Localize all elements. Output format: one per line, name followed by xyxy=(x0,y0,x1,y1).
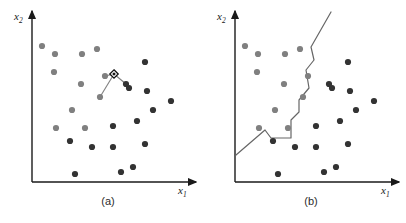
data-point-class-a xyxy=(94,46,100,52)
data-point-class-b xyxy=(123,81,129,87)
data-points-group xyxy=(242,43,377,177)
y-axis-label: x2 xyxy=(13,10,23,25)
data-point-class-a xyxy=(305,73,311,79)
data-point-class-b xyxy=(144,88,150,94)
data-point-class-b xyxy=(110,123,116,129)
data-point-class-a xyxy=(53,125,59,131)
data-point-class-a xyxy=(78,81,84,87)
data-point-class-b xyxy=(371,98,377,104)
x-axis-label: x1 xyxy=(380,184,390,199)
data-point-class-a xyxy=(52,51,58,57)
data-point-class-b xyxy=(89,144,95,150)
data-point-class-a xyxy=(255,51,261,57)
data-point-class-b xyxy=(270,138,276,144)
data-point-class-b xyxy=(110,144,116,150)
panel-a: x1x2(a) xyxy=(13,10,196,207)
data-points-group xyxy=(39,43,174,177)
panel-caption: (b) xyxy=(304,195,317,207)
data-point-class-a xyxy=(300,94,306,100)
data-point-class-a xyxy=(285,125,291,131)
data-point-class-a xyxy=(79,51,85,57)
x-axis-label: x1 xyxy=(177,184,187,199)
data-point-class-b xyxy=(142,59,148,65)
data-point-class-a xyxy=(102,73,108,79)
data-point-class-a xyxy=(254,69,260,75)
panel-b: x1x2(b) xyxy=(216,10,399,207)
data-point-class-b xyxy=(321,169,327,175)
data-point-class-b xyxy=(345,141,351,147)
data-point-class-b xyxy=(134,118,140,124)
data-point-class-b xyxy=(130,164,136,170)
data-point-class-a xyxy=(51,69,57,75)
data-point-class-a xyxy=(242,43,248,49)
axes-group xyxy=(32,11,196,182)
data-point-class-a xyxy=(39,43,45,49)
figure-container: x1x2(a)x1x2(b) xyxy=(0,0,406,223)
data-point-class-a xyxy=(97,94,103,100)
data-point-class-a xyxy=(281,81,287,87)
y-axis-label: x2 xyxy=(216,10,226,25)
data-point-class-b xyxy=(168,98,174,104)
data-point-class-b xyxy=(347,88,353,94)
data-point-class-a xyxy=(282,51,288,57)
data-point-class-a xyxy=(82,125,88,131)
data-point-class-b xyxy=(118,169,124,175)
data-point-class-b xyxy=(72,171,78,177)
data-point-class-a xyxy=(69,107,75,113)
data-point-class-b xyxy=(292,144,298,150)
data-point-class-a xyxy=(256,125,262,131)
data-point-class-b xyxy=(67,138,73,144)
panel-caption: (a) xyxy=(101,195,114,207)
data-point-class-b xyxy=(313,123,319,129)
data-point-class-b xyxy=(337,118,343,124)
scatter-plot-figure: x1x2(a)x1x2(b) xyxy=(0,0,406,223)
data-point-class-b xyxy=(353,107,359,113)
data-point-class-b xyxy=(150,107,156,113)
data-point-class-b xyxy=(333,164,339,170)
data-point-class-a xyxy=(272,107,278,113)
data-point-class-b xyxy=(275,171,281,177)
data-point-class-b xyxy=(326,81,332,87)
data-point-class-b xyxy=(142,141,148,147)
data-point-class-b xyxy=(313,144,319,150)
data-point-class-b xyxy=(345,59,351,65)
data-point-class-a xyxy=(297,46,303,52)
